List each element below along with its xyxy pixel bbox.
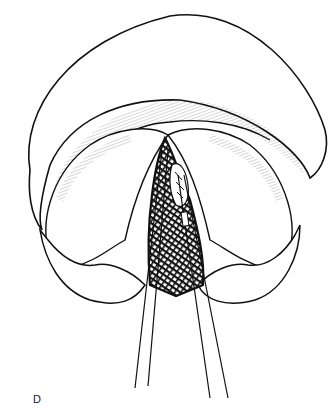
illustration xyxy=(0,0,335,418)
larynx-drawing xyxy=(0,0,335,418)
panel-label: D xyxy=(33,393,41,405)
